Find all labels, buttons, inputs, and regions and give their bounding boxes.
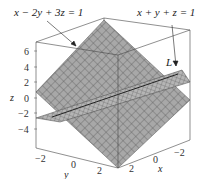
svg-text:2: 2 (24, 77, 29, 88)
plane-intersection-plot: x − 2y + 3z = 1 x + y + z = 1 L 6 4 2 0 … (0, 0, 203, 179)
z-axis-label: z (9, 92, 14, 103)
svg-text:2: 2 (97, 165, 102, 176)
svg-text:−2: −2 (18, 108, 29, 119)
svg-text:−4: −4 (18, 124, 29, 135)
svg-text:−2: −2 (35, 153, 46, 164)
line-L-label: L (165, 56, 172, 68)
svg-text:2: 2 (129, 163, 134, 174)
y-axis-label: y (63, 169, 69, 179)
svg-text:4: 4 (24, 62, 29, 73)
svg-text:0: 0 (24, 93, 29, 104)
y-axis: −2 0 2 y (35, 153, 102, 179)
plane1-label: x − 2y + 3z = 1 (13, 6, 83, 18)
z-axis: 6 4 2 0 −2 −4 z (9, 46, 37, 135)
svg-text:0: 0 (71, 159, 76, 170)
svg-text:−2: −2 (174, 147, 185, 158)
svg-text:6: 6 (24, 46, 29, 57)
x-axis-label: x (157, 163, 163, 174)
plane2-label: x + y + z = 1 (136, 6, 195, 18)
